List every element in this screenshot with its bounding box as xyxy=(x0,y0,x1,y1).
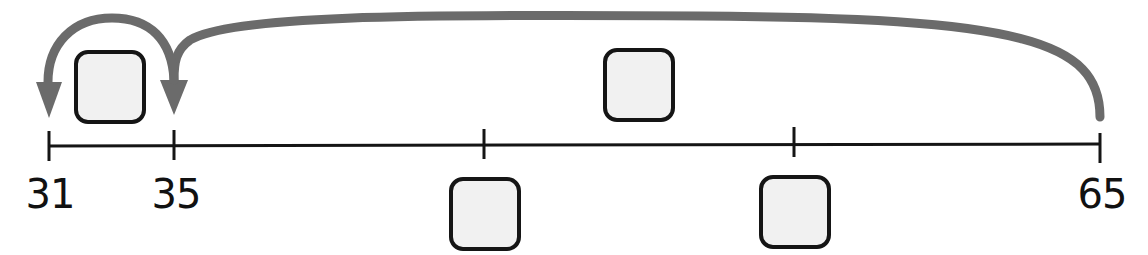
label-35: 35 xyxy=(152,170,201,218)
tick-1-answer-box[interactable] xyxy=(449,177,521,251)
big-jump-arrowhead-icon xyxy=(160,80,188,115)
label-65: 65 xyxy=(1078,170,1127,218)
small-jump-arrowhead-icon xyxy=(36,82,62,118)
small-jump-answer-box[interactable] xyxy=(74,50,146,124)
label-31: 31 xyxy=(26,170,75,218)
big-jump-answer-box[interactable] xyxy=(603,48,675,122)
number-line xyxy=(48,144,1100,146)
number-line-diagram: 31 35 65 xyxy=(0,0,1148,255)
tick-2-answer-box[interactable] xyxy=(759,175,831,249)
